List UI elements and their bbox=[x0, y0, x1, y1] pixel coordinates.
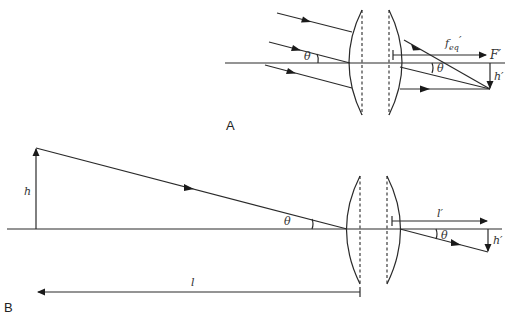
ray-arrowhead bbox=[420, 86, 430, 93]
lens-b-left-convex-surface bbox=[347, 176, 361, 284]
refracted-ray-2 bbox=[400, 67, 490, 89]
panel-label-b: B bbox=[4, 300, 13, 315]
theta-label-b-out: θ bbox=[441, 229, 448, 242]
ray-arrowhead bbox=[301, 17, 311, 23]
theta-label-b-in: θ bbox=[284, 215, 291, 228]
image-distance-label: l′ bbox=[437, 207, 444, 220]
angle-arc-a-out bbox=[432, 63, 433, 73]
ray-arrowhead bbox=[451, 239, 461, 246]
theta-label-a-out: θ bbox=[437, 62, 444, 75]
ray-arrowhead bbox=[184, 184, 194, 191]
theta-label-a-in: θ bbox=[304, 50, 311, 63]
angle-arc-a-in bbox=[317, 54, 318, 63]
panel-b: h θ θ l′ h′ l B bbox=[4, 148, 503, 315]
focal-point-label: F′ bbox=[489, 48, 501, 62]
lens-b-right-convex-surface bbox=[387, 176, 401, 284]
incoming-ray-3 bbox=[265, 65, 352, 88]
lens-pair-b bbox=[347, 176, 401, 284]
object-distance-label: l bbox=[191, 276, 195, 289]
angle-arc-b-out bbox=[436, 229, 437, 239]
optics-diagram: θ θ feq′ F′ h′ A h θ bbox=[0, 0, 514, 319]
ray-arrowhead bbox=[411, 44, 421, 51]
image-height-label-a: h′ bbox=[494, 70, 504, 83]
feq-label: feq′ bbox=[444, 34, 462, 52]
ray-arrowhead bbox=[286, 68, 296, 74]
object-height-label: h bbox=[24, 185, 31, 198]
incoming-ray-1 bbox=[277, 13, 352, 32]
panel-label-a: A bbox=[226, 118, 235, 133]
panel-a: θ θ feq′ F′ h′ A bbox=[225, 10, 505, 133]
angle-arc-b-in bbox=[312, 219, 313, 229]
ray-arrowhead bbox=[291, 45, 301, 51]
image-height-label-b: h′ bbox=[493, 234, 503, 247]
